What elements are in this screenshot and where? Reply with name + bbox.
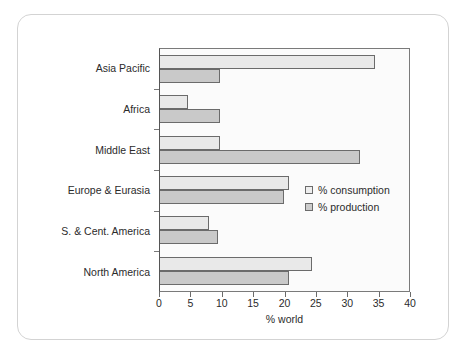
legend-item-production: % production (305, 201, 390, 213)
bar-group (160, 54, 409, 84)
legend-swatch-icon-consumption (305, 186, 313, 194)
plot-area (159, 48, 410, 292)
y-axis-label: Europe & Eurasia (40, 175, 156, 205)
bar-production (160, 230, 218, 244)
bar-production (160, 190, 284, 204)
y-axis-category-labels: Asia PacificAfricaMiddle EastEurope & Eu… (40, 48, 156, 292)
y-axis-tick (154, 211, 159, 212)
x-axis-tick-label: 10 (216, 297, 228, 309)
x-axis-tick-label: 5 (187, 297, 193, 309)
bar-consumption (160, 95, 188, 109)
bar-consumption (160, 55, 375, 69)
x-axis-tick-label: 20 (279, 297, 291, 309)
y-axis-tick (154, 129, 159, 130)
screenshot-root: Asia PacificAfricaMiddle EastEurope & Eu… (0, 0, 468, 356)
bar-production (160, 69, 220, 83)
bar-production (160, 109, 220, 123)
y-axis-tick (154, 170, 159, 171)
bar-chart-figure: Asia PacificAfricaMiddle EastEurope & Eu… (0, 0, 468, 356)
x-axis-tick-label: 35 (373, 297, 385, 309)
bar-consumption (160, 216, 209, 230)
bar-group (160, 94, 409, 124)
bar-production (160, 271, 289, 285)
bar-consumption (160, 136, 220, 150)
legend-label-production: % production (318, 201, 379, 213)
bar-consumption (160, 176, 289, 190)
x-axis-tick-label: 25 (310, 297, 322, 309)
bar-production (160, 150, 360, 164)
legend-label-consumption: % consumption (318, 184, 390, 196)
y-axis-label: Asia Pacific (40, 53, 156, 83)
y-axis-label: Middle East (40, 135, 156, 165)
y-axis-tick (154, 89, 159, 90)
y-axis-label: S. & Cent. America (40, 216, 156, 246)
bar-group (160, 135, 409, 165)
bar-group (160, 256, 409, 286)
x-axis-title: % world (159, 313, 410, 325)
y-axis-label: North America (40, 257, 156, 287)
bar-consumption (160, 257, 312, 271)
x-axis-tick-label: 0 (156, 297, 162, 309)
x-axis-tick-label: 40 (404, 297, 416, 309)
legend-item-consumption: % consumption (305, 184, 390, 196)
x-axis-tick-label: 30 (341, 297, 353, 309)
bar-rows (160, 49, 409, 291)
x-axis-tick-labels: 0510152025303540 (159, 297, 410, 311)
y-axis-label: Africa (40, 94, 156, 124)
x-axis-tick-label: 15 (247, 297, 259, 309)
y-axis-tick (154, 251, 159, 252)
bar-group (160, 215, 409, 245)
chart-legend: % consumption % production (305, 184, 390, 213)
legend-swatch-icon-production (305, 203, 313, 211)
